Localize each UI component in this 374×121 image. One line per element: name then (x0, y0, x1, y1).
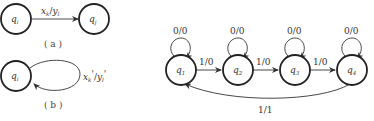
transition-label: xk/yl (41, 6, 60, 17)
self-loop-arrow (30, 60, 80, 90)
edge-label-q2-q3: 1/0 (256, 57, 271, 67)
self-loop-label-q1: 0/0 (173, 26, 188, 36)
self-loop-label-q3: 0/0 (287, 26, 302, 36)
fsm-diagram: 0/0 0/0 0/0 0/0 1/0 1/0 1/0 1/1 q1 q2 q3… (166, 26, 367, 115)
caption-b: ( b ) (44, 100, 63, 110)
panel-b: qi xk'/yl' ( b ) (1, 60, 106, 110)
panel-a: qi qj xk/yl ( a ) (1, 4, 109, 49)
state-diagram-canvas: qi qj xk/yl ( a ) qi xk'/yl' ( b ) 0/0 0… (0, 0, 374, 121)
edge-label-q1-q2: 1/0 (199, 57, 214, 67)
edge-q4-q1 (185, 84, 350, 98)
edge-label-q4-q1: 1/1 (258, 105, 272, 115)
self-loop-label: xk'/yl' (83, 69, 106, 83)
self-loop-label-q4: 0/0 (344, 26, 359, 36)
caption-a: ( a ) (44, 39, 62, 49)
edge-label-q3-q4: 1/0 (313, 57, 328, 67)
self-loop-label-q2: 0/0 (230, 26, 245, 36)
